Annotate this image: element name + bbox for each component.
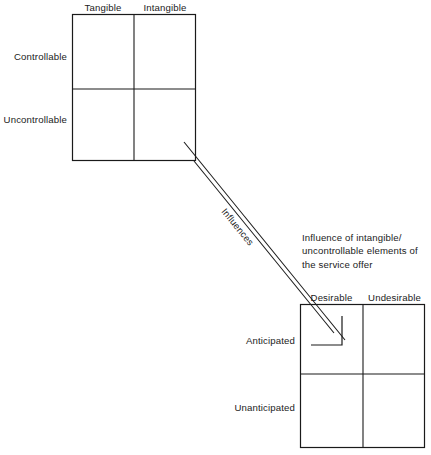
matrix-top-row-label-uncontrollable: Uncontrollable bbox=[0, 113, 67, 126]
matrix-bottom-row-label-anticipated: Anticipated bbox=[220, 334, 295, 347]
matrix-top-cell-controllable-intangible bbox=[135, 15, 195, 88]
matrix-bottom-cell-unanticipated-undesirable bbox=[364, 375, 424, 447]
matrix-bottom-cell-unanticipated-desirable bbox=[301, 375, 362, 447]
matrix-top-column-header-intangible: Intangible bbox=[134, 1, 196, 14]
matrix-top-cell-controllable-tangible bbox=[73, 15, 133, 88]
matrix-top-cell-uncontrollable-intangible bbox=[135, 90, 195, 160]
diagram-canvas: Tangible Intangible Controllable Uncontr… bbox=[0, 0, 431, 455]
matrix-bottom-cell-anticipated-undesirable bbox=[364, 305, 424, 373]
matrix-bottom-column-header-desirable: Desirable bbox=[300, 291, 363, 304]
matrix-bottom-cell-anticipated-desirable bbox=[301, 305, 362, 373]
connector-annotation: Influence of intangible/ uncontrollable … bbox=[302, 231, 430, 271]
matrix-bottom-column-header-undesirable: Undesirable bbox=[363, 291, 426, 304]
matrix-top-cell-uncontrollable-tangible bbox=[73, 90, 133, 160]
matrix-bottom-row-label-unanticipated: Unanticipated bbox=[220, 401, 295, 414]
matrix-top-column-header-tangible: Tangible bbox=[72, 1, 134, 14]
matrix-top-row-label-controllable: Controllable bbox=[0, 50, 67, 63]
